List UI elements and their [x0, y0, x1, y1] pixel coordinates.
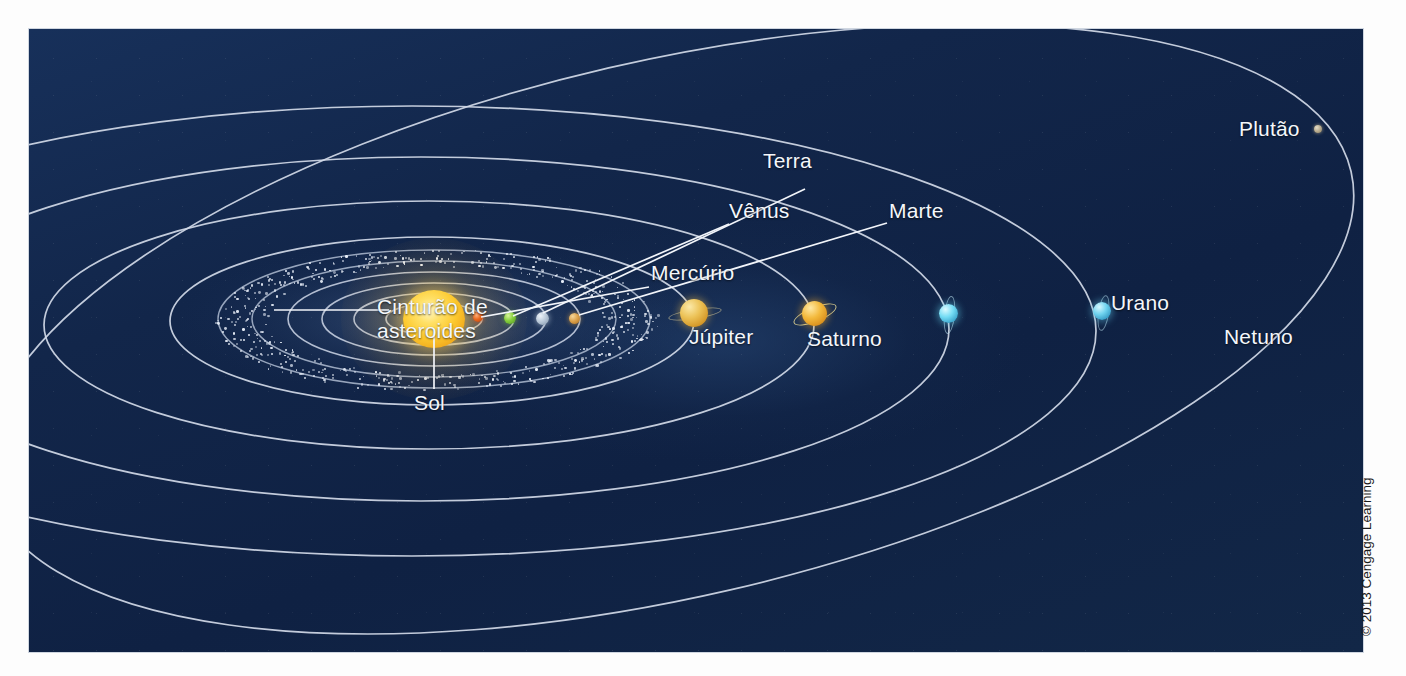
- label-earth: Terra: [763, 149, 812, 173]
- space-background-panel: Sol Mercúrio Vênus Terra Marte Cinturão …: [29, 29, 1363, 652]
- label-asteroid-belt-line2: asteroides: [377, 319, 476, 342]
- label-saturn: Saturno: [807, 327, 882, 351]
- label-pluto: Plutão: [1239, 117, 1300, 141]
- label-mercury: Mercúrio: [651, 261, 734, 285]
- label-mars: Marte: [889, 199, 944, 223]
- solar-system-figure: Sol Mercúrio Vênus Terra Marte Cinturão …: [0, 0, 1406, 676]
- copyright-text: © 2013 Cengage Learning: [1359, 477, 1374, 636]
- label-uranus: Urano: [1111, 291, 1169, 315]
- label-asteroid-belt-line1: Cinturão de: [377, 295, 488, 318]
- label-neptune: Netuno: [1224, 325, 1293, 349]
- copyright-credit: © 2013 Cengage Learning: [1364, 466, 1384, 636]
- label-jupiter: Júpiter: [689, 325, 753, 349]
- label-venus: Vênus: [729, 199, 790, 223]
- label-sun: Sol: [414, 391, 445, 415]
- label-asteroid-belt: Cinturão de asteroides: [377, 295, 488, 342]
